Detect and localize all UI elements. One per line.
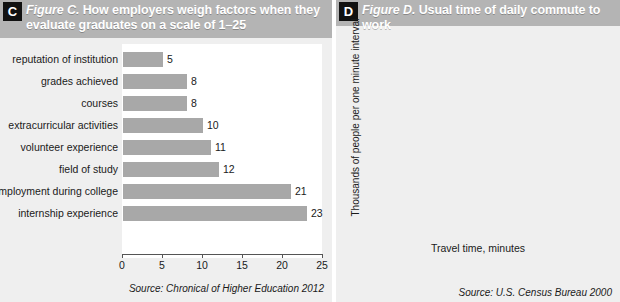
bar-segment bbox=[123, 206, 307, 221]
bar-value-label: 5 bbox=[167, 50, 173, 68]
bar-segment bbox=[123, 96, 187, 111]
bar-value-label: 23 bbox=[311, 204, 323, 222]
panel-c-source: Source: Chronical of Higher Education 20… bbox=[129, 283, 324, 294]
bar-category-label: extracurricular activities bbox=[0, 116, 118, 134]
bar-category-label: grades achieved bbox=[0, 72, 118, 90]
chart-commute-time: Thousands of people per one minute inter… bbox=[336, 26, 620, 276]
x-axis-tick bbox=[202, 254, 203, 258]
panel-d-header: D Figure D. Usual time of daily commute … bbox=[336, 0, 620, 26]
bar-value-label: 8 bbox=[191, 94, 197, 112]
y-axis-label: Thousands of people per one minute inter… bbox=[350, 47, 361, 217]
bar-value-label: 21 bbox=[295, 182, 307, 200]
bar-value-label: 12 bbox=[223, 160, 235, 178]
bar-category-label: reputation of institution bbox=[0, 50, 118, 68]
bar-row: extracurricular activities10 bbox=[0, 116, 332, 134]
bar-row: volunteer experience11 bbox=[0, 138, 332, 156]
bar-segment bbox=[123, 52, 163, 67]
x-axis-tick-label: 15 bbox=[230, 259, 254, 271]
x-axis-tick bbox=[162, 254, 163, 258]
bar-segment bbox=[123, 74, 187, 89]
x-axis-line bbox=[122, 254, 322, 255]
bar-row: field of study12 bbox=[0, 160, 332, 178]
bar-value-label: 8 bbox=[191, 72, 197, 90]
panel-figure-d: D Figure D. Usual time of daily commute … bbox=[336, 0, 620, 302]
x-axis-tick-label: 5 bbox=[150, 259, 174, 271]
panel-c-header: C Figure C. How employers weigh factors … bbox=[0, 0, 332, 38]
x-axis-tick bbox=[122, 254, 123, 258]
bar-segment bbox=[123, 118, 203, 133]
bar-row: internship experience23 bbox=[0, 204, 332, 222]
panel-d-source: Source: U.S. Census Bureau 2000 bbox=[459, 287, 612, 298]
x-axis-label: Travel time, minutes bbox=[336, 242, 620, 254]
bar-value-label: 10 bbox=[207, 116, 219, 134]
x-axis-tick-label: 0 bbox=[110, 259, 134, 271]
bar-segment bbox=[123, 184, 291, 199]
x-axis-tick bbox=[282, 254, 283, 258]
bar-category-label: volunteer experience bbox=[0, 138, 118, 156]
x-axis-tick-label: 25 bbox=[310, 259, 334, 271]
panel-c-badge: C bbox=[3, 2, 22, 21]
bar-row: employment during college21 bbox=[0, 182, 332, 200]
x-axis-tick bbox=[242, 254, 243, 258]
chart-employer-factors: reputation of institution5grades achieve… bbox=[0, 38, 332, 270]
bar-row: reputation of institution5 bbox=[0, 50, 332, 68]
bar-category-label: field of study bbox=[0, 160, 118, 178]
bar-value-label: 11 bbox=[215, 138, 226, 156]
panel-d-figure-label: Figure D. bbox=[362, 3, 415, 17]
bar-category-label: employment during college bbox=[0, 182, 118, 200]
bar-row: courses8 bbox=[0, 94, 332, 112]
x-axis-tick bbox=[322, 254, 323, 258]
bar-segment bbox=[123, 162, 219, 177]
panel-c-figure-label: Figure C. bbox=[26, 3, 79, 17]
x-axis-tick-label: 20 bbox=[270, 259, 294, 271]
bar-segment bbox=[123, 140, 211, 155]
x-axis-tick-label: 10 bbox=[190, 259, 214, 271]
figure-pair: C Figure C. How employers weigh factors … bbox=[0, 0, 620, 302]
panel-c-title-line: Figure C. How employers weigh factors wh… bbox=[26, 3, 326, 33]
bar-category-label: internship experience bbox=[0, 204, 118, 222]
bar-row: grades achieved8 bbox=[0, 72, 332, 90]
panel-figure-c: C Figure C. How employers weigh factors … bbox=[0, 0, 332, 302]
bar-category-label: courses bbox=[0, 94, 118, 112]
